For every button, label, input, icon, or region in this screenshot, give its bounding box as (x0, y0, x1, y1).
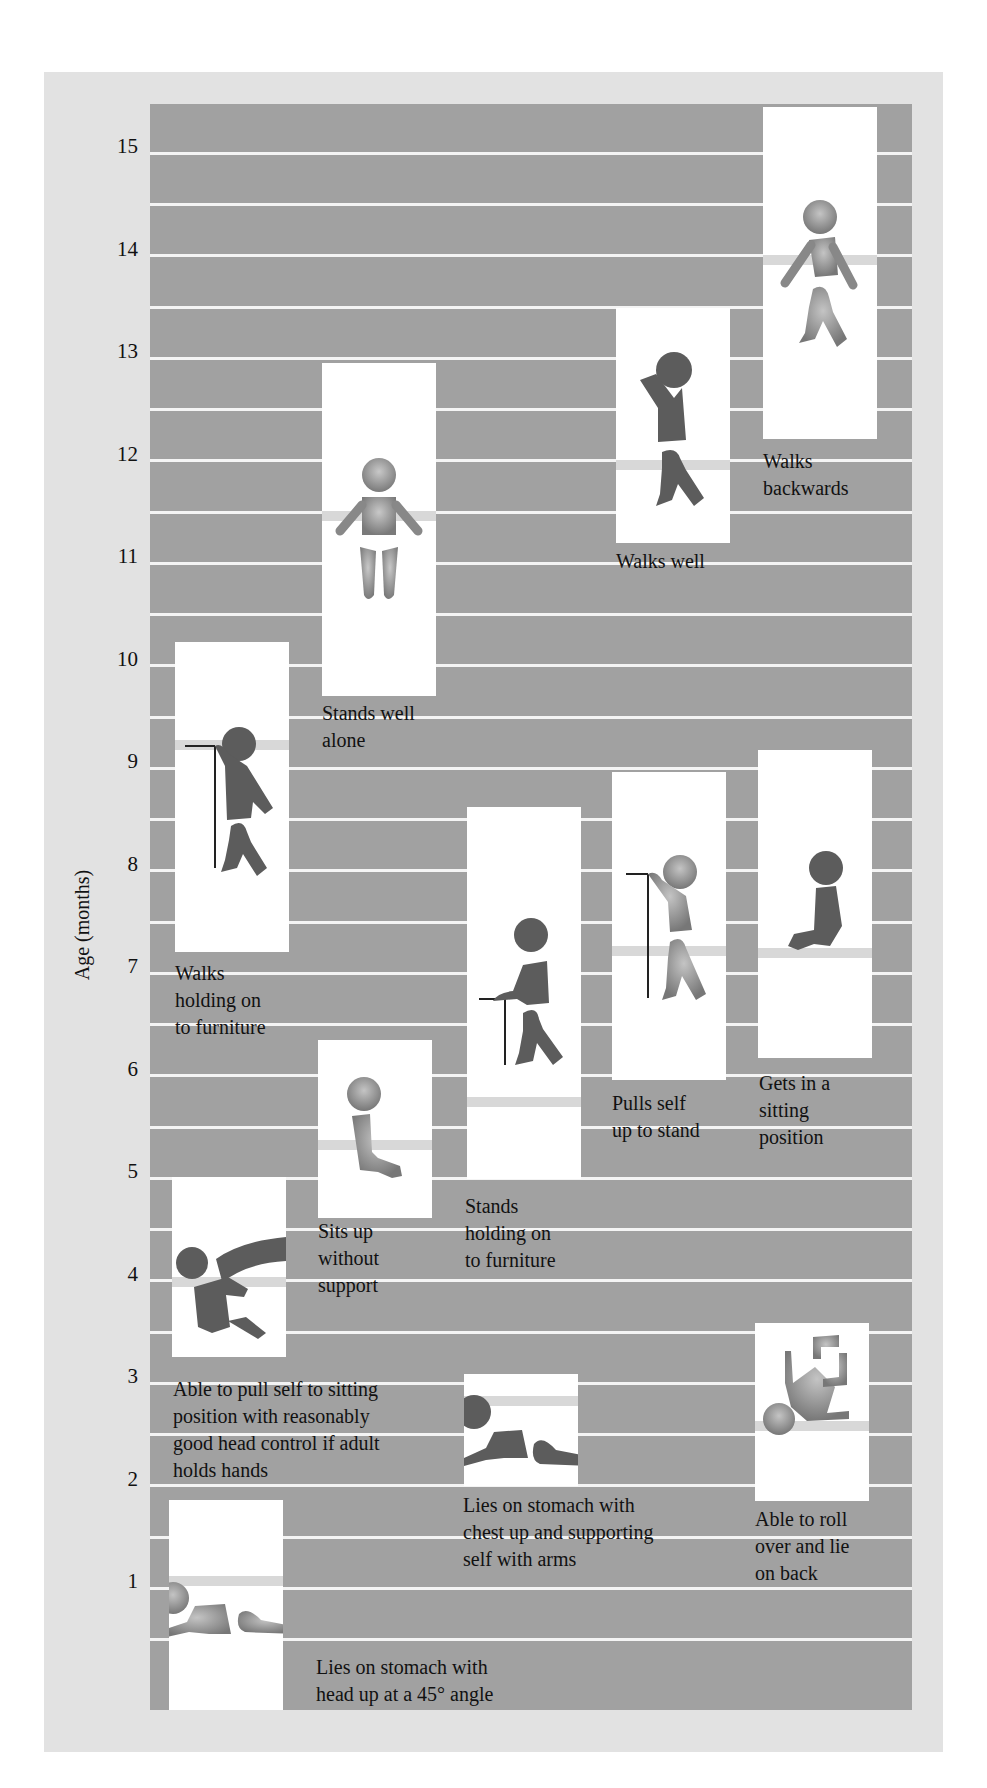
label-chest-up: Lies on stomach with chest up and suppor… (463, 1492, 654, 1573)
sitting-up-baby-icon (758, 750, 872, 1058)
standing-holding-icon (467, 807, 581, 1179)
range-box-walks-holding-furniture (175, 642, 289, 952)
y-tick-8: 8 (100, 854, 138, 875)
y-tick-6: 6 (100, 1059, 138, 1080)
cruising-baby-icon (175, 642, 289, 952)
label-pull-to-sitting: Able to pull self to sitting position wi… (173, 1376, 380, 1484)
y-tick-5: 5 (100, 1161, 138, 1182)
label-pulls-to-stand: Pulls self up to stand (612, 1090, 700, 1144)
label-head-up: Lies on stomach with head up at a 45° an… (316, 1654, 493, 1708)
label-sits-without-support: Sits up without support (318, 1218, 379, 1299)
chest-up-baby-icon (464, 1374, 578, 1486)
pulling-up-baby-icon (612, 772, 726, 1080)
label-roll-over: Able to roll over and lie on back (755, 1506, 849, 1587)
y-tick-14: 14 (100, 239, 138, 260)
y-tick-1: 1 (100, 1571, 138, 1592)
y-tick-13: 13 (100, 341, 138, 362)
rolling-baby-icon (755, 1323, 869, 1501)
standing-baby-icon (322, 363, 436, 696)
y-tick-10: 10 (100, 649, 138, 670)
y-tick-11: 11 (100, 546, 138, 567)
label-gets-sitting: Gets in a sitting position (759, 1070, 830, 1151)
range-box-chest-up (464, 1374, 578, 1486)
walking-toddler-icon (616, 308, 730, 543)
label-walks-well: Walks well (616, 548, 705, 575)
lying-baby-icon (169, 1500, 283, 1710)
range-box-walks-well (616, 308, 730, 543)
range-box-gets-sitting (758, 750, 872, 1058)
y-tick-7: 7 (100, 956, 138, 977)
range-box-pull-to-sitting (172, 1177, 286, 1357)
range-box-stands-well-alone (322, 363, 436, 696)
label-walks-holding-furniture: Walks holding on to furniture (175, 960, 266, 1041)
label-stands-holding-furniture: Stands holding on to furniture (465, 1193, 556, 1274)
y-axis-label: Age (months) (71, 870, 94, 981)
y-tick-4: 4 (100, 1264, 138, 1285)
range-box-head-up (169, 1500, 283, 1710)
range-box-walks-backwards (763, 107, 877, 439)
label-walks-backwards: Walks backwards (763, 448, 849, 502)
range-box-stands-holding-furniture (467, 807, 581, 1179)
pulled-to-sit-baby-icon (172, 1177, 286, 1357)
range-box-pulls-to-stand (612, 772, 726, 1080)
range-box-roll-over (755, 1323, 869, 1501)
y-tick-12: 12 (100, 444, 138, 465)
range-box-sits-without-support (318, 1040, 432, 1218)
sitting-baby-icon (318, 1040, 432, 1218)
y-tick-9: 9 (100, 751, 138, 772)
label-stands-well-alone: Stands well alone (322, 700, 415, 754)
y-tick-15: 15 (100, 136, 138, 157)
y-tick-3: 3 (100, 1366, 138, 1387)
y-tick-2: 2 (100, 1469, 138, 1490)
walking-baby-icon (763, 107, 877, 439)
